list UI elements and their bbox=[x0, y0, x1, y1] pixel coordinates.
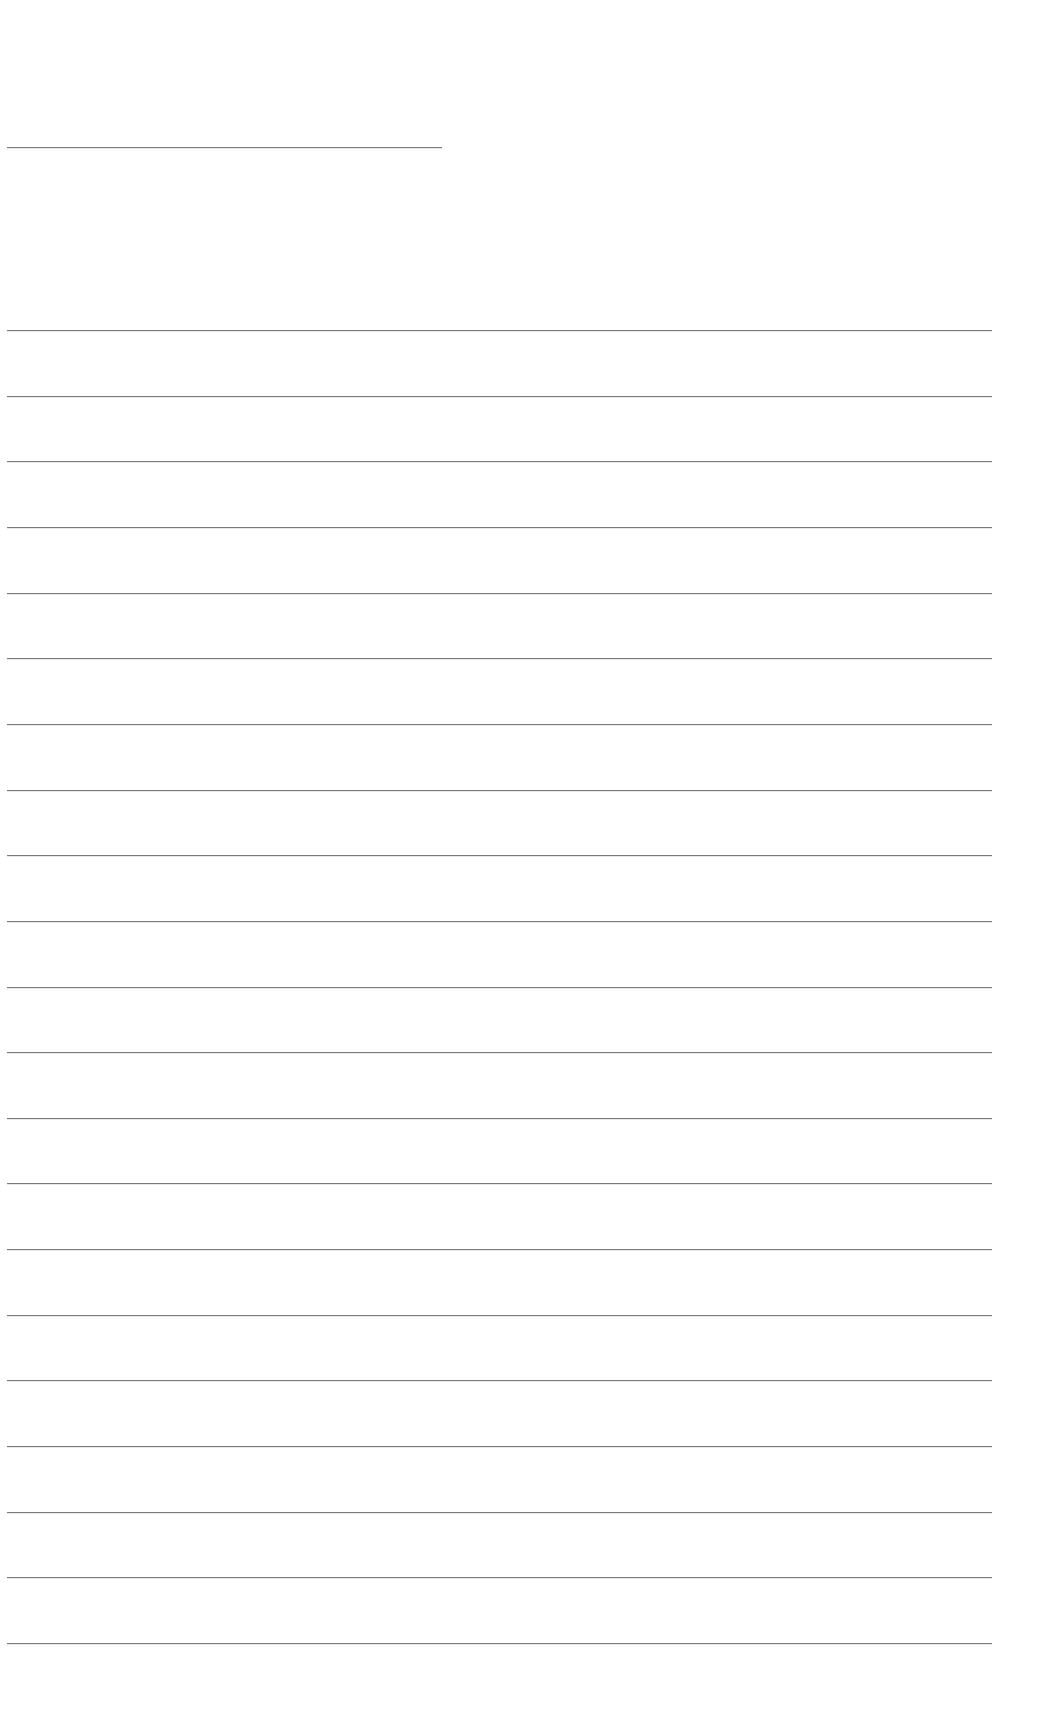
writing-line bbox=[7, 855, 992, 856]
writing-line bbox=[7, 658, 992, 659]
writing-line bbox=[7, 1643, 992, 1644]
writing-line bbox=[7, 790, 992, 791]
title-line bbox=[7, 147, 442, 148]
writing-line bbox=[7, 724, 992, 725]
writing-line bbox=[7, 396, 992, 397]
lined-paper-page bbox=[0, 0, 1062, 1726]
writing-line bbox=[7, 1577, 992, 1578]
writing-line bbox=[7, 1249, 992, 1250]
writing-line bbox=[7, 921, 992, 922]
writing-line bbox=[7, 1446, 992, 1447]
writing-line bbox=[7, 1315, 992, 1316]
writing-line bbox=[7, 527, 992, 528]
writing-line bbox=[7, 1052, 992, 1053]
writing-line bbox=[7, 461, 992, 462]
writing-line bbox=[7, 1183, 992, 1184]
writing-line bbox=[7, 593, 992, 594]
writing-line bbox=[7, 987, 992, 988]
writing-line bbox=[7, 1118, 992, 1119]
writing-line bbox=[7, 330, 992, 331]
writing-line bbox=[7, 1380, 992, 1381]
writing-line bbox=[7, 1512, 992, 1513]
